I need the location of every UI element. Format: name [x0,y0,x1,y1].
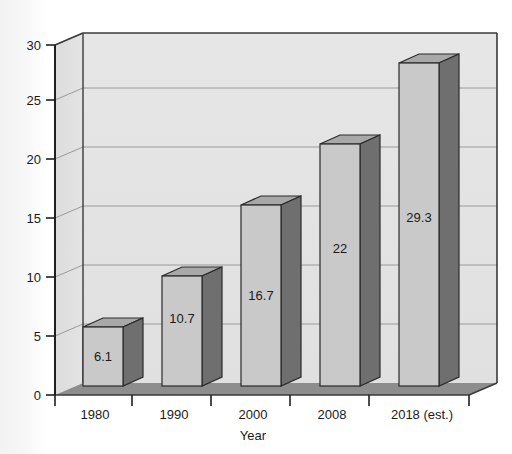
bar-value-label: 22 [333,241,347,256]
bar-front-face [162,276,202,386]
y-tick-label: 30 [27,38,41,53]
bar-group-2018[interactable]: 29.3 [399,54,459,386]
y-tick-label: 5 [34,329,41,344]
y-tick-label: 10 [27,270,41,285]
x-category-label: 2000 [239,407,268,422]
bar-value-label: 6.1 [94,349,112,364]
bar-side-face [281,196,301,386]
bar-side-face [360,135,380,386]
bar-group-2008[interactable]: 22 [320,135,380,386]
y-axis-ticks [46,45,55,395]
bar-value-label: 29.3 [406,210,431,225]
bar-side-face [202,267,222,386]
bar-group-1980[interactable]: 6.1 [83,318,143,386]
x-axis-ticks [55,395,469,406]
y-tick-label: 15 [27,211,41,226]
bar-value-label: 10.7 [169,311,194,326]
x-category-label: 2008 [318,407,347,422]
x-category-label: 2018 (est.) [391,407,453,422]
chart-canvas: 6.1 10.7 16.7 22 [0,0,512,454]
y-tick-label: 0 [34,388,41,403]
bar-chart-figure: 6.1 10.7 16.7 22 [0,0,512,454]
bar-side-face [439,54,459,386]
x-category-label: 1990 [160,407,189,422]
x-category-label: 1980 [81,407,110,422]
bar-group-2000[interactable]: 16.7 [241,196,301,386]
left-wall [55,33,83,395]
bar-group-1990[interactable]: 10.7 [162,267,222,386]
bar-front-face [320,144,360,386]
y-tick-label: 25 [27,93,41,108]
x-axis: 1980 1990 2000 2008 2018 (est.) Year [55,395,469,443]
bar-value-label: 16.7 [248,288,273,303]
y-axis: 30 25 20 15 10 5 0 [27,38,55,403]
bar-side-face [123,318,143,386]
x-axis-title: Year [240,428,267,443]
y-tick-label: 20 [27,152,41,167]
chart-plot-area: 6.1 10.7 16.7 22 [27,33,497,443]
